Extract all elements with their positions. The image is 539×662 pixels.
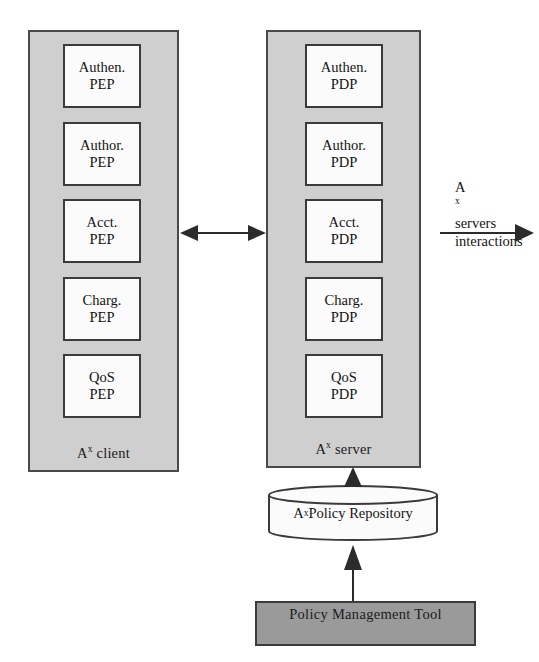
node-line2: PDP bbox=[331, 309, 358, 326]
node-line2: PDP bbox=[331, 76, 358, 93]
server-panel-label-suffix: server bbox=[331, 441, 371, 457]
node-author-pep: Author. PEP bbox=[63, 122, 141, 186]
node-line1: Acct. bbox=[329, 214, 360, 231]
node-qos-pdp: QoS PDP bbox=[305, 354, 383, 418]
servers-caption-line1: Ax servers bbox=[455, 178, 539, 232]
node-authen-pep: Authen. PEP bbox=[63, 44, 141, 108]
server-panel: Authen. PDP Author. PDP Acct. PDP Charg.… bbox=[266, 30, 421, 468]
servers-caption-suffix: servers bbox=[455, 214, 539, 232]
node-acct-pdp: Acct. PDP bbox=[305, 199, 383, 263]
node-line2: PEP bbox=[90, 231, 115, 248]
repository-label-prefix: A bbox=[293, 505, 303, 522]
node-line2: PEP bbox=[90, 309, 115, 326]
node-line2: PEP bbox=[90, 76, 115, 93]
node-line2: PDP bbox=[331, 386, 358, 403]
tool-to-repository-arrow bbox=[344, 545, 362, 601]
node-line1: QoS bbox=[89, 369, 115, 386]
node-line1: Authen. bbox=[79, 59, 125, 76]
client-panel-label: Ax client bbox=[30, 445, 177, 462]
node-charg-pep: Charg. PEP bbox=[63, 277, 141, 341]
node-line2: PDP bbox=[331, 231, 358, 248]
servers-caption-superscript: x bbox=[455, 195, 460, 206]
server-panel-label-prefix: A bbox=[315, 441, 326, 457]
diagram-canvas: Authen. PEP Author. PEP Acct. PEP Charg.… bbox=[0, 0, 539, 662]
server-panel-label: Ax server bbox=[268, 441, 419, 458]
policy-repository-label: Ax Policy Repository bbox=[268, 485, 438, 541]
node-line1: Acct. bbox=[87, 214, 118, 231]
servers-caption-line2: interactions bbox=[455, 232, 539, 250]
repository-to-server-arrow bbox=[344, 467, 362, 487]
policy-repository-cylinder: Ax Policy Repository bbox=[268, 485, 438, 541]
servers-interactions-caption: Ax servers interactions bbox=[455, 178, 539, 251]
repository-label-suffix: Policy Repository bbox=[308, 505, 412, 522]
node-line2: PDP bbox=[331, 154, 358, 171]
client-panel-label-prefix: A bbox=[77, 445, 88, 461]
node-line1: Authen. bbox=[321, 59, 367, 76]
client-panel: Authen. PEP Author. PEP Acct. PEP Charg.… bbox=[28, 30, 179, 472]
servers-caption-prefix: A bbox=[455, 178, 539, 196]
node-line2: PEP bbox=[90, 386, 115, 403]
node-author-pdp: Author. PDP bbox=[305, 122, 383, 186]
node-line1: QoS bbox=[331, 369, 357, 386]
node-authen-pdp: Authen. PDP bbox=[305, 44, 383, 108]
client-server-bidirectional-arrow bbox=[180, 225, 266, 241]
node-line1: Charg. bbox=[325, 292, 364, 309]
node-line1: Charg. bbox=[83, 292, 122, 309]
node-qos-pep: QoS PEP bbox=[63, 354, 141, 418]
node-charg-pdp: Charg. PDP bbox=[305, 277, 383, 341]
policy-management-tool-label: Policy Management Tool bbox=[289, 606, 442, 623]
node-acct-pep: Acct. PEP bbox=[63, 199, 141, 263]
node-line1: Author. bbox=[80, 137, 124, 154]
policy-management-tool-box: Policy Management Tool bbox=[255, 601, 476, 646]
client-panel-label-suffix: client bbox=[93, 445, 130, 461]
node-line1: Author. bbox=[322, 137, 366, 154]
node-line2: PEP bbox=[90, 154, 115, 171]
